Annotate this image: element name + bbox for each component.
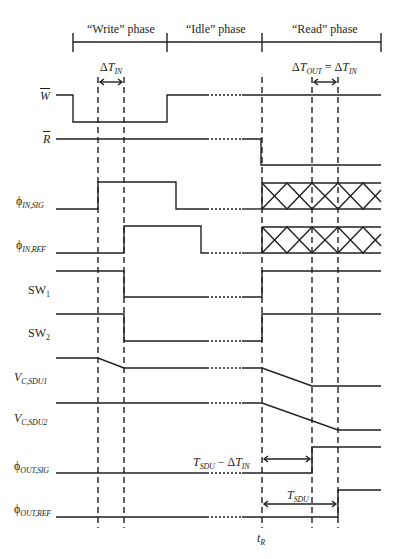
signal-label-vc-sdu1: VC,SDU1	[14, 371, 47, 386]
phase-label-read: “Read” phase	[292, 23, 358, 35]
signal-label-vc-sdu2: VC,SDU2	[14, 412, 47, 427]
delta-t-out-arrow	[314, 79, 336, 85]
delta-t-in-arrow	[100, 79, 122, 85]
t-r-label: tR	[257, 532, 265, 547]
tsdu-label: TSDU	[287, 489, 309, 504]
signal-label-phi-out-sig: ϕOUT,SIG	[14, 460, 49, 475]
tsdu-minus-arrow	[264, 456, 310, 462]
phase-label-write: “Write” phase	[87, 23, 155, 35]
signal-sw2	[56, 314, 381, 341]
timing-diagram-canvas	[0, 0, 401, 559]
signal-label-phi-out-ref: ϕOUT,REF	[14, 503, 51, 518]
signal-label-w-bar: W	[40, 90, 50, 102]
signal-vc-sdu2	[56, 403, 381, 430]
delta-t-out-label: ΔTOUT = ΔTIN	[292, 61, 357, 76]
signal-label-sw2: SW2	[28, 327, 50, 342]
signal-phi-in-ref	[56, 226, 262, 253]
undefined-region-phi-in-sig	[262, 183, 381, 209]
tsdu-minus-delta-label: TSDU − ΔTIN	[193, 456, 249, 471]
signal-sw1	[56, 271, 381, 297]
signal-vc-sdu1	[56, 358, 381, 386]
delta-t-in-label: ΔTIN	[100, 61, 122, 76]
signal-r-bar	[56, 139, 381, 165]
phase-label-idle: “Idle” phase	[186, 23, 246, 35]
undefined-region-phi-in-ref	[262, 227, 381, 253]
signal-label-phi-in-sig: ϕIN,SIG	[16, 195, 44, 210]
signal-phi-in-sig	[56, 182, 262, 209]
signal-label-sw1: SW1	[28, 284, 50, 299]
signal-label-r-bar: R	[43, 133, 50, 145]
signal-label-phi-in-ref: ϕIN,REF	[16, 239, 46, 254]
signal-w-bar	[56, 95, 381, 122]
